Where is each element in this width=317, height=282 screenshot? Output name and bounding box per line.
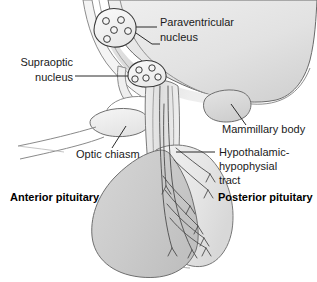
pvn-cell-2 <box>118 17 125 24</box>
label-mammillary-body: Mammillary body <box>222 123 306 135</box>
label-anterior-pituitary: Anterior pituitary <box>10 191 100 203</box>
son-cell-2 <box>149 65 155 71</box>
son-cell-3 <box>143 75 149 81</box>
mammillary-body <box>204 90 251 122</box>
anatomy-diagram: Paraventricular nucleus Supraoptic nucle… <box>0 0 317 282</box>
label-posterior-pituitary: Posterior pituitary <box>218 191 314 203</box>
diagram-canvas: Paraventricular nucleus Supraoptic nucle… <box>0 0 317 282</box>
pvn-cell-5 <box>104 36 111 43</box>
paraventricular-nucleus-group <box>94 9 136 48</box>
label-hypothalamic-hypophysial-tract-line2: hypophysial <box>219 160 277 172</box>
son-cell-4 <box>155 74 161 80</box>
pvn-cell-3 <box>111 27 118 34</box>
pvn-cell-1 <box>103 18 110 25</box>
label-optic-chiasm: Optic chiasm <box>76 148 140 160</box>
optic-chiasm <box>90 108 149 136</box>
label-supraoptic-nucleus-line2: nucleus <box>35 71 73 83</box>
pvn-cell-4 <box>125 28 132 35</box>
supraoptic-nucleus-group <box>128 60 166 87</box>
son-cell-1 <box>136 67 142 73</box>
label-paraventricular-nucleus-line1: Paraventricular <box>160 16 234 28</box>
label-paraventricular-nucleus-line2: nucleus <box>160 31 198 43</box>
mammillary-body-group <box>204 90 251 122</box>
label-hypothalamic-hypophysial-tract-line3: tract <box>219 174 240 186</box>
label-hypothalamic-hypophysial-tract-line1: Hypothalamic- <box>219 146 290 158</box>
optic-nerve-edge <box>18 146 64 152</box>
supraoptic-nucleus <box>128 60 166 87</box>
son-cell-5 <box>132 76 138 82</box>
label-supraoptic-nucleus-line1: Supraoptic <box>20 56 73 68</box>
